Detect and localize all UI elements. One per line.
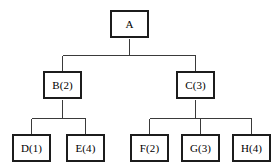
tree-node-a[interactable]: A xyxy=(110,10,149,38)
tree-node-c-label: C(3) xyxy=(185,80,206,91)
tree-diagram: A B(2) C(3) D(1) E(4) F(2) G(3) H(4) xyxy=(0,0,280,168)
tree-node-d[interactable]: D(1) xyxy=(12,134,51,162)
tree-node-h[interactable]: H(4) xyxy=(232,134,271,162)
tree-node-h-label: H(4) xyxy=(241,143,262,154)
tree-node-b-label: B(2) xyxy=(52,80,73,91)
tree-node-f-label: F(2) xyxy=(140,143,159,154)
tree-node-c[interactable]: C(3) xyxy=(176,71,215,99)
tree-node-g-label: G(3) xyxy=(190,143,211,154)
tree-node-e[interactable]: E(4) xyxy=(66,134,105,162)
tree-node-d-label: D(1) xyxy=(21,143,42,154)
tree-node-g[interactable]: G(3) xyxy=(181,134,220,162)
tree-node-b[interactable]: B(2) xyxy=(43,71,82,99)
tree-node-a-label: A xyxy=(125,19,133,30)
tree-node-f[interactable]: F(2) xyxy=(130,134,169,162)
tree-node-e-label: E(4) xyxy=(76,143,96,154)
